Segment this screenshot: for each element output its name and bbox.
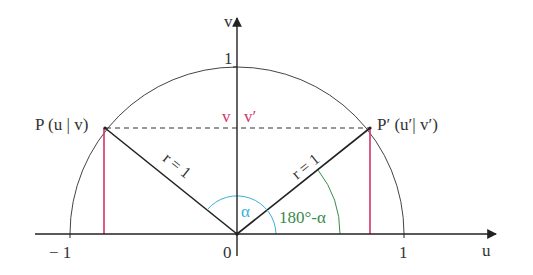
tick-label-u-1: 1 [399, 243, 408, 262]
origin-point [235, 232, 239, 236]
u-axis-label: u [482, 241, 491, 260]
height-label-v-prime: v′ [244, 107, 256, 126]
angle-label-alpha: α [241, 202, 250, 221]
v-axis-label: v [224, 12, 233, 31]
point-label-p-prime: P′ (u′| v′) [377, 115, 438, 134]
point-p-prime [368, 126, 371, 129]
radius-label-right: r = 1 [288, 150, 322, 182]
height-label-v: v [222, 107, 231, 126]
tick-label-v-1: 1 [224, 49, 233, 68]
tick-label-u-0: 0 [223, 243, 232, 262]
point-label-p: P (u | v) [35, 115, 88, 134]
point-p [103, 126, 106, 129]
unit-circle-diagram: v u − 1 0 1 1 P (u | v) P′ (u′| v′) v v′… [0, 0, 533, 275]
radius-line-p [105, 128, 237, 234]
angle-label-supplement: 180°-α [279, 208, 326, 227]
tick-label-u-minus-1: − 1 [49, 243, 71, 262]
